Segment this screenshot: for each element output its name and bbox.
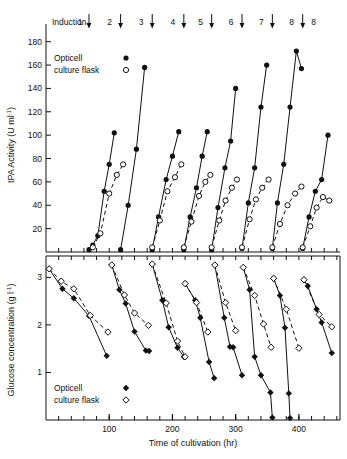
tpa-activity-data-point [308,224,313,229]
tpa-activity-data-point [150,245,155,250]
tpa-activity-data-point [239,245,244,250]
glucose-concentration-data-point [270,275,276,281]
glucose-x-tick-label: 200 [165,424,179,434]
glucose-concentration-data-point [206,359,212,365]
induction-number-5: 5 [198,17,203,27]
glucose-concentration-data-point [182,280,188,286]
tpa-activity-data-point [164,177,169,182]
glucose-concentration-data-point [251,354,257,360]
glucose-concentration-opticell-line [215,265,242,375]
tpa-activity-data-point [165,189,170,194]
tpa-activity-data-point [234,177,239,182]
tpa-y-tick-label: 60 [33,177,43,187]
glucose-concentration-data-point [258,372,264,378]
glucose-concentration-data-point [122,300,128,306]
tpa-y-tick-label: 180 [28,37,42,47]
tpa-activity-legend-label-2: culture flask [54,65,100,75]
glucose-concentration-data-point [222,299,228,305]
glucose-concentration-data-point [149,261,155,267]
induction-number-7: 7 [259,17,264,27]
tpa-activity-data-point [217,218,222,223]
glucose-concentration-data-point [318,319,324,325]
tpa-activity-data-point [98,231,103,236]
induction-arrowhead-2 [118,23,123,29]
tpa-y-tick-label: 80 [33,154,43,164]
glucose-concentration-data-point [251,292,257,298]
tpa-activity-data-point [277,221,282,226]
tpa-activity-data-point [299,184,304,189]
tpa-activity-data-point [252,165,257,170]
figure-canvas: 20406080100120140160180tPA Activity (U m… [0,0,347,459]
glucose-concentration-legend-marker-2 [123,397,129,403]
tpa-activity-data-point [189,219,194,224]
glucose-concentration-data-point [316,311,322,317]
glucose-x-axis-label: Time of cultivation (hr) [149,438,238,448]
glucose-y-tick-label: 3 [37,272,42,282]
tpa-activity-data-point [229,185,234,190]
glucose-concentration-legend-label-1: Opticell [54,383,82,393]
glucose-concentration-data-point [165,324,171,330]
tpa-y-tick-label: 40 [33,200,43,210]
glucose-concentration-data-point [240,264,246,270]
tpa-activity-data-point [200,154,205,159]
glucose-concentration-data-point [103,353,109,359]
tpa-activity-data-point [275,200,280,205]
glucose-concentration-culture-flask-line [185,284,208,332]
glucose-concentration-culture-flask-line [49,269,108,332]
glucose-y-axis-label: Glucose concentration (g l-1) [6,284,16,397]
tpa-activity-data-point [306,214,311,219]
tpa-activity-data-point [196,193,201,198]
glucose-concentration-culture-flask-line [152,264,185,357]
tpa-activity-data-point [300,245,305,250]
glucose-concentration-data-point [71,286,77,292]
tpa-activity-data-point [223,198,228,203]
induction-number-3: 3 [139,17,144,27]
tpa-activity-data-point [233,86,238,91]
tpa-activity-data-point [314,205,319,210]
induction-number-8-right: 8 [311,17,316,27]
glucose-x-tick-label: 100 [102,424,116,434]
tpa-activity-opticell-line [272,51,301,248]
tpa-activity-data-point [325,133,330,138]
tpa-activity-data-point [266,177,271,182]
tpa-y-tick-label: 20 [33,224,43,234]
glucose-concentration-data-point [205,329,211,335]
induction-number-6: 6 [229,17,234,27]
tpa-activity-data-point [285,203,290,208]
glucose-concentration-data-point [212,262,218,268]
glucose-concentration-data-point [282,325,288,331]
tpa-y-axis-label: tPA Activity (U ml-1) [6,107,16,183]
glucose-concentration-data-point [145,322,151,328]
tpa-activity-data-point [294,48,299,53]
tpa-activity-data-point [107,162,112,167]
tpa-activity-data-point [209,245,214,250]
induction-number-4: 4 [170,17,175,27]
induction-arrowhead-1 [87,23,92,29]
tpa-activity-data-point [134,147,139,152]
glucose-y-tick-label: 2 [37,320,42,330]
induction-arrowhead-4 [181,23,186,29]
glucose-concentration-data-point [211,375,217,381]
glucose-concentration-data-point [232,327,238,333]
tpa-activity-data-point [247,217,252,222]
tpa-activity-data-point [258,105,263,110]
glucose-concentration-data-point [329,350,335,356]
tpa-y-tick-label: 140 [28,83,42,93]
tpa-activity-legend-marker-2 [123,67,128,72]
glucose-concentration-data-point [239,372,245,378]
tpa-activity-data-point [126,203,131,208]
tpa-activity-data-point [327,198,332,203]
tpa-activity-data-point [253,197,258,202]
tpa-y-tick-label: 120 [28,107,42,117]
glucose-concentration-data-point [260,321,266,327]
induction-arrowhead-6 [240,23,245,29]
glucose-concentration-data-point [301,277,307,283]
tpa-activity-data-point [181,245,186,250]
induction-number-8: 8 [289,17,294,27]
tpa-activity-data-point [215,205,220,210]
induction-arrowhead-7 [270,23,275,29]
tpa-activity-data-point [287,105,292,110]
glucose-concentration-culture-flask-line [243,267,271,347]
tpa-activity-opticell-line [184,132,207,250]
tpa-activity-data-point [205,129,210,134]
